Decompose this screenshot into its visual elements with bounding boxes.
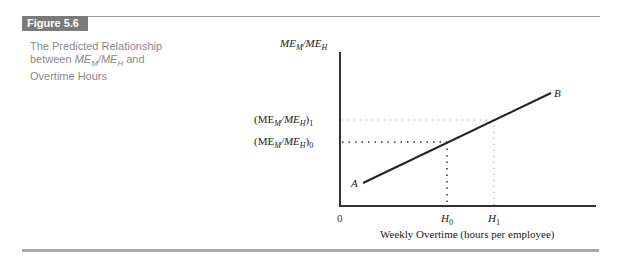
y-axis-label: MEM/MEH bbox=[279, 37, 329, 52]
point-b-label: B bbox=[554, 87, 561, 99]
x-axis-label: Weekly Overtime (hours per employee) bbox=[380, 228, 555, 241]
level-1-label: (MEM/MEH)1 bbox=[254, 113, 313, 128]
origin-label: 0 bbox=[337, 212, 343, 224]
point-a-label: A bbox=[350, 177, 358, 189]
diagram: MEM/MEH (MEM/MEH)1 (MEM/MEH)0 A B 0 H0 H… bbox=[0, 0, 625, 263]
relationship-line bbox=[363, 93, 551, 183]
h1-label: H1 bbox=[487, 212, 500, 227]
bottom-rule bbox=[22, 249, 599, 252]
h0-label: H0 bbox=[440, 212, 453, 227]
level-0-label: (MEM/MEH)0 bbox=[254, 135, 313, 150]
